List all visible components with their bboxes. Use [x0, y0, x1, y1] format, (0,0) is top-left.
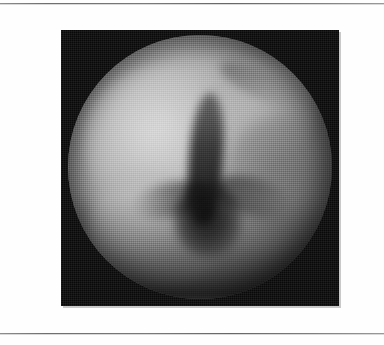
figure-caption — [61, 310, 339, 324]
page-bottom-rule-shadow — [0, 334, 384, 335]
figure-block — [61, 30, 339, 306]
page-top-rule-shadow — [0, 4, 384, 5]
figure-plate — [61, 30, 339, 306]
endoscopic-field-of-view — [68, 35, 332, 299]
scan-halftone-grain — [68, 35, 332, 299]
document-page — [0, 0, 384, 345]
